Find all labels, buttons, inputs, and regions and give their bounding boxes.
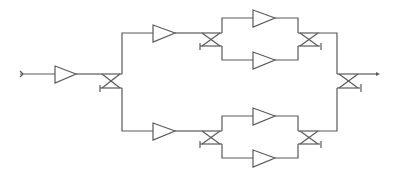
upper-hybrid-icon (200, 33, 222, 50)
amplifier-network-diagram (0, 0, 396, 173)
lower-hybrid-icon (200, 131, 222, 148)
upper-driver-amplifier-icon (153, 25, 175, 42)
lower-combiner-icon (298, 131, 321, 148)
lower-final-top-amplifier-icon (253, 108, 275, 125)
upper-combiner-icon (298, 33, 321, 50)
output-hybrid-icon (337, 74, 361, 92)
input-hybrid-icon (100, 74, 122, 92)
output-arrow-icon (360, 72, 380, 76)
lower-driver-amplifier-icon (153, 123, 175, 140)
upper-final-top-amplifier-icon (253, 10, 275, 27)
diagram-canvas (0, 0, 396, 173)
upper-final-bottom-amplifier-icon (253, 52, 275, 69)
input-line (20, 71, 55, 77)
lower-final-bottom-amplifier-icon (253, 150, 275, 167)
input-amplifier-icon (55, 66, 76, 83)
